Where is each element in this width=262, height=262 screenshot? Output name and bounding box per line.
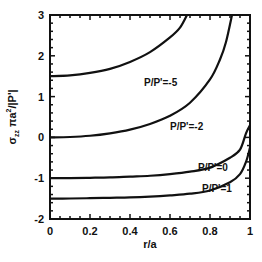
y-label-end: /|P'| bbox=[6, 89, 18, 108]
x-tick-label: 0.6 bbox=[162, 225, 177, 237]
curve-label: P/P'=1 bbox=[202, 183, 232, 194]
y-tick-label: 1 bbox=[38, 91, 44, 103]
y-tick-label: -2 bbox=[34, 213, 44, 225]
curve-pp-5 bbox=[50, 15, 187, 76]
x-tick-label: 0.4 bbox=[122, 225, 138, 237]
x-tick-label: 0.8 bbox=[202, 225, 217, 237]
x-tick-label: 0.2 bbox=[82, 225, 97, 237]
curve-pp-2 bbox=[50, 15, 232, 137]
curve-label: P/P'=-5 bbox=[144, 77, 178, 88]
stress-chart: 00.20.40.60.81 -2-10123 P/P'=-5P/P'=-2P/… bbox=[0, 0, 262, 262]
y-tick-label: -1 bbox=[34, 172, 44, 184]
x-tick-labels: 00.20.40.60.81 bbox=[47, 225, 253, 237]
curve-label: P/P'=-2 bbox=[170, 121, 204, 132]
y-axis-label: σzz πa2/|P'| bbox=[5, 89, 20, 144]
y-tick-labels: -2-10123 bbox=[34, 9, 44, 225]
y-tick-label: 3 bbox=[38, 9, 44, 21]
y-label-mid: πa bbox=[6, 112, 18, 130]
y-tick-label: 2 bbox=[38, 50, 44, 62]
y-tick-label: 0 bbox=[38, 131, 44, 143]
x-tick-label: 0 bbox=[47, 225, 53, 237]
x-axis-label: r/a bbox=[143, 238, 157, 250]
curve-label: P/P'=0 bbox=[198, 162, 228, 173]
x-tick-label: 1 bbox=[247, 225, 253, 237]
